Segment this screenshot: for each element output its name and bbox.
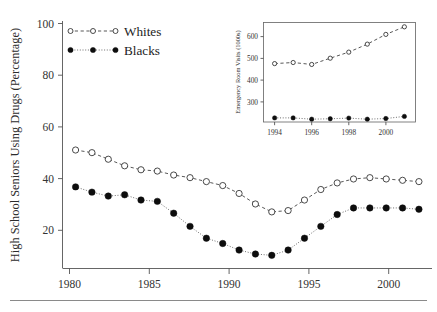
data-point-blacks-1987[interactable]: [187, 223, 193, 229]
data-point-whites-1999[interactable]: [365, 42, 369, 46]
data-point-blacks-1985[interactable]: [154, 198, 160, 204]
inset-y-tick-label-300: 300: [247, 98, 258, 107]
y-tick-label-100: 100: [37, 18, 55, 30]
data-point-blacks-2001[interactable]: [416, 206, 422, 212]
main-series-layer: [72, 147, 422, 259]
legend-marker-whites-1: [68, 29, 73, 34]
legend-marker-whites-3: [113, 29, 118, 34]
data-point-blacks-1996[interactable]: [310, 117, 314, 121]
inset-panel: 600 500 400 300 Emergency Room Visits (1…: [234, 23, 416, 137]
data-point-blacks-1990[interactable]: [236, 247, 242, 253]
y-tick-label-40: 40: [43, 173, 55, 185]
data-point-blacks-1992[interactable]: [269, 252, 275, 258]
figure-panel: 100 80 60 40 20 High School Seniors Usin…: [0, 0, 437, 312]
inset-x-tick-label-1998: 1998: [342, 128, 357, 137]
x-tick-label-1995: 1995: [297, 278, 320, 290]
series-line-whites: [76, 150, 419, 212]
data-point-whites-1994[interactable]: [301, 197, 307, 203]
data-point-blacks-2001[interactable]: [402, 114, 406, 118]
inset-x-tick-label-1996: 1996: [304, 128, 319, 137]
data-point-whites-2000[interactable]: [384, 32, 388, 36]
data-point-blacks-1989[interactable]: [220, 240, 226, 246]
legend-marker-blacks-2: [90, 47, 95, 52]
y-axis-ticks: [58, 24, 63, 231]
data-point-whites-1984[interactable]: [138, 167, 144, 173]
data-point-blacks-1994[interactable]: [301, 235, 307, 241]
data-point-blacks-1997[interactable]: [350, 205, 356, 211]
y-tick-label-80: 80: [43, 69, 55, 81]
inset-x-axis-tick-labels: 1994 1996 1998 2000: [267, 128, 393, 137]
data-point-blacks-1995[interactable]: [291, 116, 295, 120]
data-point-blacks-2000[interactable]: [384, 116, 388, 120]
data-point-blacks-1983[interactable]: [121, 192, 127, 198]
data-point-blacks-1993[interactable]: [285, 247, 291, 253]
inset-y-tick-label-500: 500: [247, 54, 258, 63]
data-point-whites-1999[interactable]: [383, 176, 389, 182]
data-point-whites-1994[interactable]: [273, 62, 277, 66]
data-point-whites-2001[interactable]: [416, 179, 422, 185]
legend: Whites Blacks: [68, 24, 161, 58]
y-axis-tick-labels: 100 80 60 40 20: [37, 18, 55, 237]
x-axis-ticks: [70, 269, 389, 275]
legend-entry-whites[interactable]: Whites: [68, 24, 161, 39]
data-point-blacks-1991[interactable]: [252, 251, 258, 257]
data-point-whites-1988[interactable]: [203, 179, 209, 185]
data-point-blacks-1994[interactable]: [272, 116, 276, 120]
data-point-whites-1997[interactable]: [328, 56, 332, 60]
data-point-blacks-1982[interactable]: [105, 193, 111, 199]
data-point-whites-1987[interactable]: [187, 175, 193, 181]
data-point-whites-1980[interactable]: [72, 147, 78, 153]
legend-label-whites: Whites: [124, 24, 161, 39]
data-point-blacks-2000[interactable]: [399, 205, 405, 211]
data-point-blacks-1997[interactable]: [328, 117, 332, 121]
data-point-whites-1985[interactable]: [154, 168, 160, 174]
data-point-blacks-1998[interactable]: [347, 116, 351, 120]
data-point-blacks-1999[interactable]: [365, 117, 369, 121]
legend-entry-blacks[interactable]: Blacks: [68, 43, 160, 58]
legend-label-blacks: Blacks: [124, 43, 160, 58]
data-point-whites-1998[interactable]: [367, 175, 373, 181]
data-point-whites-1993[interactable]: [285, 207, 291, 213]
data-point-blacks-1998[interactable]: [367, 205, 373, 211]
y-axis-title: High School Seniors Using Drugs (Percent…: [8, 28, 22, 262]
inset-y-axis-ticks: [261, 37, 264, 102]
data-point-whites-1989[interactable]: [220, 182, 226, 188]
data-point-whites-2001[interactable]: [402, 25, 406, 29]
data-point-blacks-1986[interactable]: [170, 210, 176, 216]
data-point-blacks-1981[interactable]: [89, 189, 95, 195]
inset-y-axis-tick-labels: 600 500 400 300: [247, 32, 258, 106]
data-point-blacks-1999[interactable]: [383, 205, 389, 211]
data-point-whites-1995[interactable]: [291, 60, 295, 64]
data-point-whites-1997[interactable]: [350, 176, 356, 182]
data-point-whites-1981[interactable]: [89, 150, 95, 156]
data-point-whites-1982[interactable]: [105, 156, 111, 162]
data-point-whites-1996[interactable]: [334, 180, 340, 186]
inset-x-tick-label-2000: 2000: [379, 128, 394, 137]
data-point-whites-1990[interactable]: [236, 190, 242, 196]
data-point-blacks-1996[interactable]: [334, 211, 340, 217]
data-point-blacks-1984[interactable]: [138, 197, 144, 203]
inset-x-tick-label-1994: 1994: [267, 128, 282, 137]
x-axis-tick-labels: 1980 1985 1990 1995 2000: [58, 278, 400, 290]
data-point-blacks-1988[interactable]: [203, 235, 209, 241]
data-point-blacks-1980[interactable]: [72, 184, 78, 190]
x-tick-label-1990: 1990: [218, 278, 241, 290]
legend-marker-blacks-1: [68, 47, 73, 52]
x-tick-label-2000: 2000: [377, 278, 400, 290]
data-point-whites-1995[interactable]: [318, 186, 324, 192]
data-point-whites-1991[interactable]: [252, 201, 258, 207]
data-point-whites-1992[interactable]: [269, 209, 275, 215]
data-point-whites-2000[interactable]: [399, 177, 405, 183]
data-point-whites-1996[interactable]: [310, 62, 314, 66]
data-point-whites-1998[interactable]: [347, 50, 351, 54]
chart-canvas: 100 80 60 40 20 High School Seniors Usin…: [0, 0, 437, 312]
inset-x-axis-ticks: [275, 122, 386, 125]
y-tick-label-60: 60: [43, 121, 55, 133]
data-point-whites-1983[interactable]: [122, 163, 128, 169]
x-tick-label-1980: 1980: [58, 278, 81, 290]
data-point-whites-1986[interactable]: [171, 172, 177, 178]
x-tick-label-1985: 1985: [138, 278, 161, 290]
inset-y-axis-title: Emergency Room Visits (1000s): [234, 30, 242, 113]
legend-marker-blacks-3: [113, 47, 118, 52]
data-point-blacks-1995[interactable]: [318, 223, 324, 229]
